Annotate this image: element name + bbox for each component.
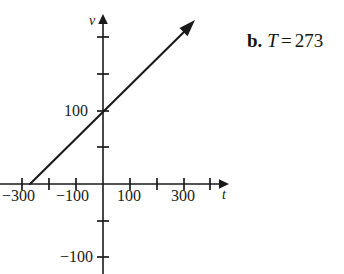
answer-variable: T xyxy=(262,30,278,51)
answer-part-letter: b. xyxy=(247,30,262,51)
y-tick-label-100: 100 xyxy=(64,103,88,119)
x-tick-label-neg300: −300 xyxy=(2,188,35,204)
y-tick-label-neg100: −100 xyxy=(60,249,93,265)
x-tick-label-300: 300 xyxy=(171,188,195,204)
y-axis-label-v: v xyxy=(89,14,95,28)
x-tick-label-100: 100 xyxy=(117,188,141,204)
x-tick-label-neg100: −100 xyxy=(56,188,89,204)
answer-equals: = xyxy=(278,30,292,51)
y-axis-arrow-icon xyxy=(98,14,108,24)
figure-page: −300 −100 100 300 100 −100 t v b.T=273 xyxy=(0,0,344,274)
answer-value: 273 xyxy=(292,30,324,51)
answer-annotation: b.T=273 xyxy=(228,8,323,74)
x-axis-label-t: t xyxy=(222,188,226,202)
data-line-v-of-t xyxy=(30,27,189,184)
